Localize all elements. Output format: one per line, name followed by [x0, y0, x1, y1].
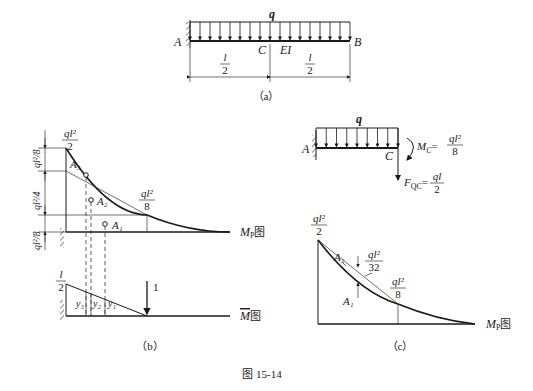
fixed-support-icon: [60, 300, 64, 320]
mid-value-den: 8: [395, 288, 401, 300]
load-label: q: [356, 112, 362, 126]
top-value-num: ql²: [313, 212, 326, 224]
mp-diagram-name: MP图: [485, 317, 511, 332]
mp-diagram-name: MP图: [239, 225, 265, 240]
ordinate-y2-label: y₂: [92, 298, 101, 309]
leader-line: [365, 273, 372, 276]
fixed-support-icon: [312, 135, 316, 157]
panel-c-free-body: q A C MC= ql² 8 FQC= ql 2: [301, 112, 463, 195]
mid-value-num: ql²: [392, 275, 405, 287]
end-label: C: [385, 149, 394, 163]
moment-value-num: ql²: [449, 132, 462, 144]
distributed-load-arrows: [190, 22, 350, 40]
end-label: B: [354, 35, 362, 49]
mbar-top-den: 2: [58, 281, 64, 293]
unit-load-label: 1: [153, 281, 159, 293]
shear-label: FQC=: [403, 176, 428, 191]
top-value-den: 2: [316, 225, 322, 237]
figure-canvas: q A C B EI l 2 l 2 （a） ql²/8 ql²/4 ql²/8…: [0, 0, 533, 391]
shear-value-num: ql: [433, 170, 442, 182]
area-a2-label: A₂: [96, 195, 108, 207]
moment-arc-icon: [407, 138, 414, 160]
mid-label: C: [258, 43, 267, 57]
shear-value-den: 2: [434, 183, 440, 195]
dim-right-den: 2: [307, 64, 313, 76]
mid-value-den: 8: [144, 200, 150, 212]
dim-label-bottom: ql²/8: [31, 231, 42, 250]
panel-c-mp-diagram: ql² 2 A₂ A₁ ql² 32 ql² 8 MP图 （c）: [311, 212, 511, 352]
centroid-a2: [89, 198, 94, 203]
centroid-a1: [103, 222, 108, 227]
figure-caption: 图 15-14: [242, 368, 282, 380]
panel-b-mbar-diagram: y₃ y₂ y₁ l 2 1 M图 （b）: [56, 268, 261, 352]
ordinate-y3-label: y₃: [75, 298, 84, 309]
support-label: A: [173, 35, 182, 49]
dim-left-num: l: [223, 51, 226, 63]
stiffness-label: EI: [279, 43, 292, 57]
fixed-support-icon: [60, 228, 64, 248]
fixed-support-icon: [186, 22, 190, 46]
dim-label-top: ql²/8: [31, 149, 42, 168]
ordinate-y1-label: y₁: [107, 298, 116, 309]
area-a2-label: A₂: [333, 251, 345, 263]
area-a1-label: A₁: [111, 219, 123, 231]
leader-line: [343, 263, 346, 266]
dim-right-num: l: [308, 51, 311, 63]
parabola-value-den: 32: [369, 261, 380, 273]
dim-left-den: 2: [222, 64, 228, 76]
area-a3-label: A₃: [69, 158, 81, 170]
panel-b-label: （b）: [136, 340, 164, 352]
mbar-top-num: l: [59, 268, 62, 280]
panel-a: q A C B EI l 2 l 2 （a）: [173, 7, 362, 102]
centroid-a3: [84, 173, 89, 178]
area-a1-label: A₁: [342, 295, 354, 307]
mbar-diagram-name: M图: [239, 309, 261, 323]
moment-value-den: 8: [452, 145, 458, 157]
dim-label-mid: ql²/4: [31, 191, 42, 210]
moment-label: MC=: [416, 140, 438, 155]
parabola-value-num: ql²: [368, 248, 381, 260]
chord-line: [66, 171, 147, 215]
load-label: q: [269, 7, 275, 21]
support-label: A: [301, 142, 310, 156]
panel-c-label: （c）: [387, 340, 414, 352]
top-value-num: ql²: [64, 127, 77, 139]
panel-a-label: （a）: [253, 90, 280, 102]
distributed-load-arrows: [316, 128, 398, 147]
mid-value-num: ql²: [141, 187, 154, 199]
